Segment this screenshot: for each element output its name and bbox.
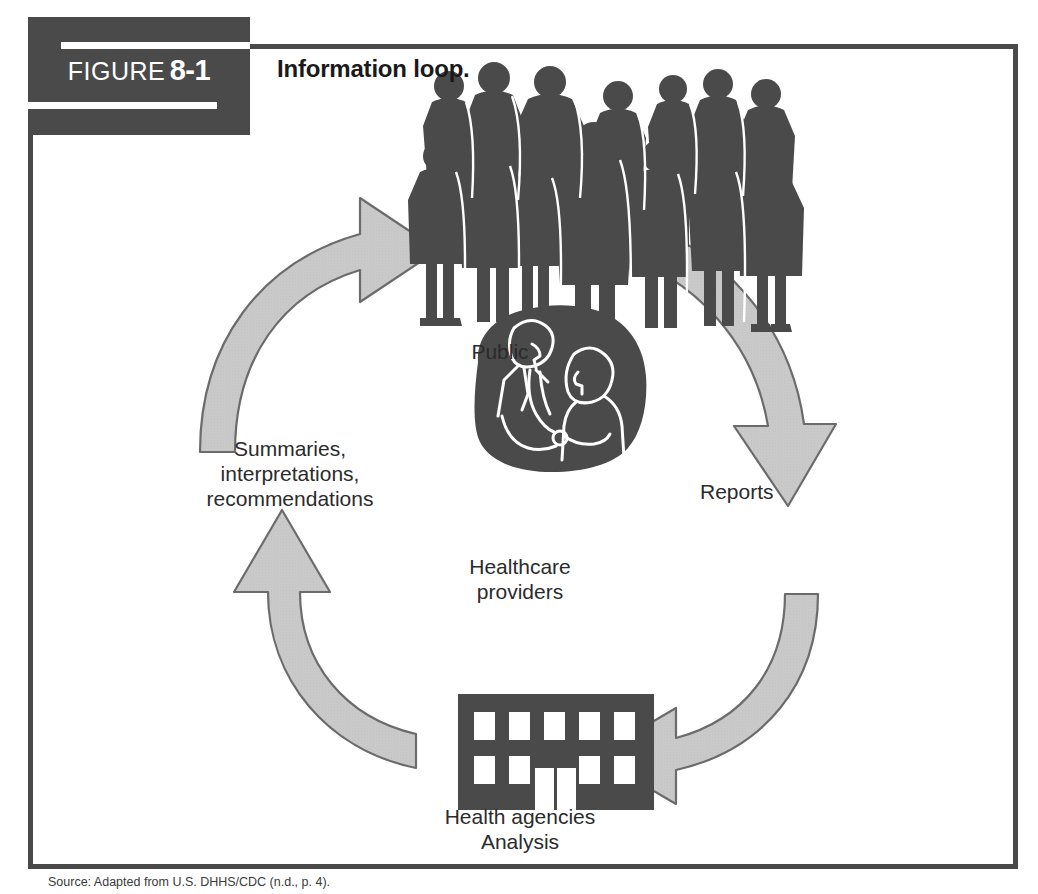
- figure-page: Public Healthcare providers Health agenc…: [0, 0, 1038, 894]
- summaries-line-1: Summaries,: [155, 437, 425, 462]
- doctor-patient-icon: [475, 305, 647, 472]
- node-label-healthcare-providers: Healthcare providers: [420, 555, 620, 605]
- arrow-agencies-to-summaries: [234, 510, 416, 768]
- providers-line-1: Healthcare: [420, 555, 620, 580]
- badge-text: FIGURE 8-1: [28, 54, 250, 87]
- figure-number-badge: FIGURE 8-1: [28, 17, 250, 135]
- providers-line-2: providers: [420, 580, 620, 605]
- badge-number: 8-1: [170, 54, 210, 86]
- office-building-icon: [458, 694, 654, 810]
- summaries-line-3: recommendations: [155, 487, 425, 512]
- summaries-line-2: interpretations,: [155, 462, 425, 487]
- badge-rule-top: [61, 42, 250, 49]
- agencies-line-1: Health agencies: [380, 805, 660, 830]
- agencies-line-2: Analysis: [380, 830, 660, 855]
- node-label-public: Public: [400, 340, 600, 365]
- edge-label-reports: Reports: [700, 480, 880, 505]
- crowd-silhouette-icon: [408, 62, 804, 344]
- badge-rule-bottom: [28, 102, 217, 109]
- figure-source-caption: Source: Adapted from U.S. DHHS/CDC (n.d.…: [48, 875, 330, 889]
- figure-title: Information loop.: [277, 55, 470, 83]
- node-label-health-agencies: Health agencies Analysis: [380, 805, 660, 855]
- edge-label-summaries: Summaries, interpretations, recommendati…: [155, 437, 425, 511]
- arrow-summaries-to-public: [200, 198, 438, 452]
- badge-word: FIGURE: [68, 57, 165, 85]
